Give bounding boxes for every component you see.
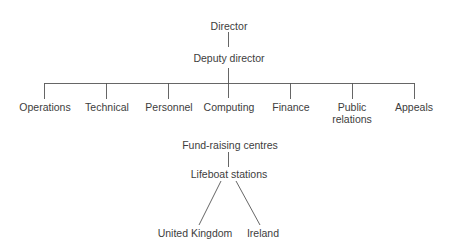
public-relations-line2: relations [332,113,372,125]
node-technical: Technical [85,101,129,113]
node-appeals: Appeals [395,101,433,113]
connector-lines [0,0,452,242]
node-finance: Finance [272,101,309,113]
public-relations-line1: Public [332,101,372,113]
node-lifeboat-stations: Lifeboat stations [191,168,267,180]
node-united-kingdom: United Kingdom [158,227,233,239]
connector-lifeboat-ireland [236,181,260,225]
connector-lifeboat-uk [199,181,221,225]
node-computing: Computing [204,101,255,113]
node-personnel: Personnel [145,101,192,113]
node-director: Director [211,20,248,32]
node-public-relations: Public relations [332,101,372,125]
node-fundraising-centres: Fund-raising centres [182,139,278,151]
node-operations: Operations [19,101,70,113]
node-ireland: Ireland [247,227,279,239]
node-deputy-director: Deputy director [193,52,264,64]
